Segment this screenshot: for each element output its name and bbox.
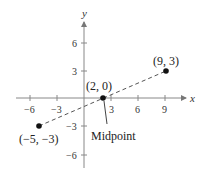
point-midpoint: [100, 95, 106, 101]
y-tick-label: −3: [66, 121, 77, 132]
x-tick-label: −6: [24, 104, 35, 115]
x-tick-label: 3: [109, 104, 114, 115]
point-9-3: [163, 68, 169, 74]
y-tick-label: 3: [72, 66, 77, 77]
point-label: (−5, −3): [19, 132, 59, 146]
point-label: (2, 0): [86, 79, 112, 93]
x-tick-label: 9: [162, 104, 167, 115]
x-tick-label: −3: [51, 104, 62, 115]
midpoint-leader-line: [104, 101, 107, 124]
coordinate-plane: x y −6 −3 3 6 9 6 3 −3 −6 (−5, −3) (2, 0…: [0, 0, 207, 177]
point-neg5-neg3: [36, 123, 42, 129]
x-tick-label: 6: [135, 104, 140, 115]
y-axis-label: y: [81, 7, 87, 19]
x-axis-label: x: [189, 92, 195, 104]
midpoint-annotation: Midpoint: [91, 129, 136, 143]
y-tick-label: 6: [72, 38, 77, 49]
point-label: (9, 3): [153, 54, 179, 68]
y-tick-label: −6: [66, 150, 77, 161]
